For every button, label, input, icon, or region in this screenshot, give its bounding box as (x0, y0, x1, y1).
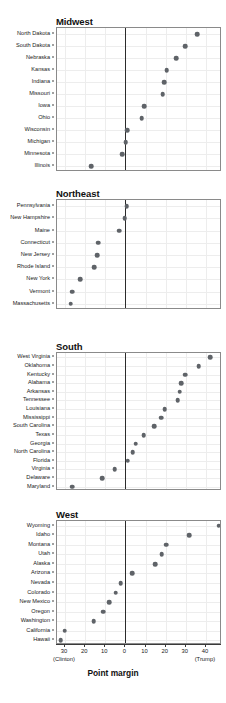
gridline-horizontal (57, 640, 220, 641)
x-axis-title: Point margin (0, 668, 226, 678)
category-label: Kentucky (27, 371, 50, 377)
category-label: Washington (21, 617, 50, 623)
category-tick (52, 399, 55, 400)
x-axis-tick-label: 10 (101, 648, 107, 655)
x-axis-tick-label: 20 (81, 648, 87, 655)
category-tick (52, 524, 55, 525)
category-label: Kansas (31, 66, 50, 72)
category-label: Delaware (26, 474, 50, 480)
data-point (195, 32, 200, 37)
data-point (96, 240, 101, 245)
category-tick (52, 408, 55, 409)
category-label: Maryland (27, 483, 50, 489)
gridline-horizontal (57, 375, 220, 376)
gridline-vertical (85, 521, 86, 643)
data-point (130, 571, 135, 576)
category-tick (52, 153, 55, 154)
panel-title: West (56, 509, 78, 520)
x-axis-tick (145, 644, 146, 647)
category-label: Hawaii (33, 636, 50, 642)
category-tick (52, 601, 55, 602)
category-tick (52, 477, 55, 478)
gridline-vertical (105, 353, 106, 489)
gridline-vertical (206, 521, 207, 643)
gridline-vertical (85, 28, 86, 170)
data-point (175, 398, 180, 403)
gridline-vertical (166, 28, 167, 170)
plot-area (56, 352, 221, 490)
category-label: Maine (35, 227, 50, 233)
gridline-horizontal (57, 46, 220, 47)
category-label: Texas (35, 431, 50, 437)
category-tick (52, 620, 55, 621)
gridline-horizontal (57, 130, 220, 131)
data-point (165, 68, 170, 73)
gridline-horizontal (57, 593, 220, 594)
category-label: Michigan (28, 138, 50, 144)
data-point (163, 407, 168, 412)
category-tick (52, 591, 55, 592)
gridline-vertical (65, 353, 66, 489)
data-point (117, 228, 122, 233)
data-point (125, 128, 130, 133)
category-tick (52, 290, 55, 291)
gridline-vertical (146, 521, 147, 643)
category-tick (52, 356, 55, 357)
gridline-horizontal (57, 94, 220, 95)
category-tick (52, 302, 55, 303)
gridline-horizontal (57, 154, 220, 155)
gridline-vertical (65, 200, 66, 308)
category-label: Indiana (32, 78, 50, 84)
gridline-horizontal (57, 58, 220, 59)
category-label: New York (26, 275, 50, 281)
category-tick (52, 241, 55, 242)
category-tick (52, 45, 55, 46)
category-tick (52, 105, 55, 106)
data-point (58, 638, 63, 643)
data-point (63, 628, 68, 633)
category-tick (52, 69, 55, 70)
gridline-horizontal (57, 554, 220, 555)
category-label: New Jersey (21, 251, 50, 257)
chart-root: MidwestNorth DakotaSouth DakotaNebraskaK… (0, 0, 226, 703)
data-point (70, 484, 75, 489)
category-label: Wisconsin (25, 126, 51, 132)
gridline-horizontal (57, 292, 220, 293)
gridline-horizontal (57, 231, 220, 232)
gridline-horizontal (57, 142, 220, 143)
category-tick (52, 373, 55, 374)
gridline-vertical (105, 28, 106, 170)
category-tick (52, 639, 55, 640)
category-label: Iowa (38, 102, 50, 108)
category-tick (52, 117, 55, 118)
gridline-vertical (146, 28, 147, 170)
category-label: North Dakota (17, 30, 50, 36)
category-tick (52, 165, 55, 166)
data-point (126, 459, 131, 464)
gridline-horizontal (57, 564, 220, 565)
data-point (196, 364, 201, 369)
data-point (177, 390, 182, 395)
category-label: Nebraska (26, 54, 50, 60)
category-tick (52, 416, 55, 417)
category-label: Arizona (31, 569, 50, 575)
category-label: Louisiana (26, 405, 50, 411)
gridline-vertical (85, 353, 86, 489)
x-axis-tick-label: 0 (123, 648, 126, 655)
gridline-horizontal (57, 478, 220, 479)
gridline-vertical (65, 28, 66, 170)
category-tick (52, 442, 55, 443)
data-point (183, 44, 188, 49)
x-axis-tick (165, 644, 166, 647)
gridline-horizontal (57, 426, 220, 427)
category-label: Arkansas (27, 388, 50, 394)
gridline-horizontal (57, 218, 220, 219)
category-tick (52, 610, 55, 611)
data-point (139, 116, 144, 121)
x-axis-tick-label: 10 (141, 648, 147, 655)
gridline-vertical (166, 353, 167, 489)
category-label: Mississippi (23, 414, 50, 420)
category-tick (52, 451, 55, 452)
category-label: Colorado (27, 589, 50, 595)
category-tick (52, 582, 55, 583)
